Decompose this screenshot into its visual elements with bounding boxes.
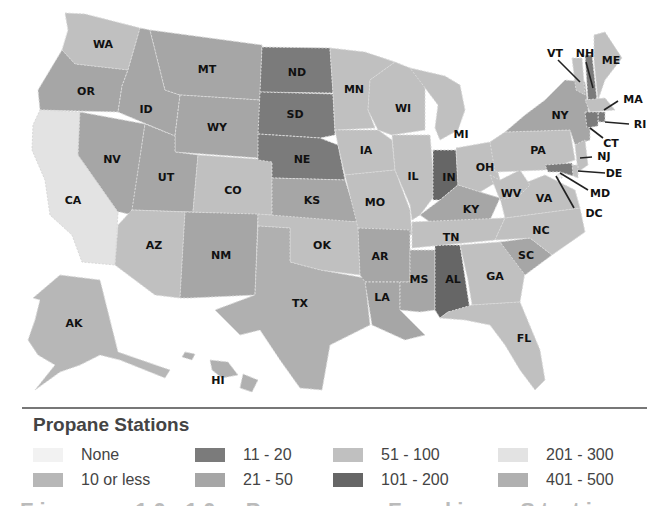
label-IL: IL bbox=[407, 170, 418, 183]
label-WI: WI bbox=[395, 102, 411, 115]
figure-caption: Figure 10-10. Propane Fueling Stations b… bbox=[20, 496, 664, 506]
legend-label: 201 - 300 bbox=[546, 446, 614, 464]
label-AZ: AZ bbox=[146, 239, 163, 252]
label-IN: IN bbox=[442, 171, 455, 184]
label-CO: CO bbox=[224, 184, 241, 197]
legend-label: 21 - 50 bbox=[243, 471, 293, 489]
label-MS: MS bbox=[410, 273, 429, 286]
legend-label: 51 - 100 bbox=[381, 446, 440, 464]
label-MT: MT bbox=[198, 63, 217, 76]
us-propane-map: WA OR CA ID NV MT WY UT AZ CO NM ND SD N… bbox=[0, 0, 664, 400]
state-AK[interactable] bbox=[28, 275, 170, 390]
legend-divider bbox=[22, 407, 647, 409]
label-MD: MD bbox=[590, 187, 610, 200]
legend-item-21-50: 21 - 50 bbox=[195, 471, 293, 489]
label-ND: ND bbox=[288, 66, 306, 79]
label-NV: NV bbox=[103, 153, 121, 166]
label-AR: AR bbox=[372, 250, 390, 263]
label-AL: AL bbox=[445, 273, 461, 286]
leader-DE bbox=[578, 171, 605, 173]
label-OR: OR bbox=[77, 85, 95, 98]
label-NC: NC bbox=[532, 224, 549, 237]
legend-swatch bbox=[498, 448, 528, 462]
leader-NJ bbox=[580, 157, 592, 158]
legend-item-none: None bbox=[33, 446, 119, 464]
label-SC: SC bbox=[518, 249, 534, 262]
label-MO: MO bbox=[365, 196, 385, 209]
label-NH: NH bbox=[576, 47, 594, 60]
legend-item-51-100: 51 - 100 bbox=[333, 446, 440, 464]
legend-label: 401 - 500 bbox=[546, 471, 614, 489]
legend-item-201-300: 201 - 300 bbox=[498, 446, 614, 464]
label-MI: MI bbox=[453, 128, 468, 141]
label-VA: VA bbox=[536, 192, 553, 205]
label-NE: NE bbox=[294, 153, 311, 166]
leader-RI bbox=[605, 122, 629, 124]
legend-label: 11 - 20 bbox=[243, 446, 292, 464]
legend-swatch bbox=[195, 473, 225, 487]
state-HI-3 bbox=[240, 374, 258, 392]
label-GA: GA bbox=[486, 270, 504, 283]
label-CA: CA bbox=[65, 194, 82, 207]
label-NY: NY bbox=[551, 109, 569, 122]
label-MN: MN bbox=[344, 83, 364, 96]
label-AK: AK bbox=[65, 317, 83, 330]
state-CT[interactable] bbox=[585, 112, 598, 128]
label-CT: CT bbox=[603, 137, 619, 150]
label-ME: ME bbox=[602, 54, 620, 67]
label-OK: OK bbox=[313, 239, 331, 252]
label-NM: NM bbox=[211, 249, 231, 262]
legend-item-101-200: 101 - 200 bbox=[333, 471, 449, 489]
label-KS: KS bbox=[304, 194, 321, 207]
leader-CT bbox=[590, 128, 603, 138]
state-AZ[interactable] bbox=[115, 210, 185, 298]
label-DC: DC bbox=[585, 207, 602, 220]
label-WV: WV bbox=[501, 187, 522, 200]
label-KY: KY bbox=[463, 203, 481, 216]
label-TN: TN bbox=[443, 231, 460, 244]
label-NJ: NJ bbox=[597, 150, 610, 163]
label-MA: MA bbox=[623, 93, 643, 106]
label-LA: LA bbox=[374, 291, 390, 304]
legend-label: 101 - 200 bbox=[381, 471, 449, 489]
label-IA: IA bbox=[360, 144, 373, 157]
label-WA: WA bbox=[93, 38, 114, 51]
legend-swatch bbox=[333, 448, 363, 462]
label-HI: HI bbox=[211, 374, 224, 387]
legend-label: 10 or less bbox=[81, 471, 150, 489]
label-DE: DE bbox=[606, 167, 623, 180]
legend-item-11-20: 11 - 20 bbox=[195, 446, 292, 464]
legend-title: Propane Stations bbox=[33, 414, 189, 436]
legend-swatch bbox=[498, 473, 528, 487]
label-VT: VT bbox=[547, 47, 564, 60]
state-RI[interactable] bbox=[598, 112, 605, 122]
legend-swatch bbox=[333, 473, 363, 487]
legend-item-10-or-less: 10 or less bbox=[33, 471, 150, 489]
label-FL: FL bbox=[517, 332, 532, 345]
label-PA: PA bbox=[530, 144, 546, 157]
label-RI: RI bbox=[634, 118, 647, 131]
legend-swatch bbox=[195, 448, 225, 462]
label-OH: OH bbox=[476, 161, 495, 174]
label-SD: SD bbox=[286, 108, 303, 121]
legend-item-401-500: 401 - 500 bbox=[498, 471, 614, 489]
legend: None 10 or less 11 - 20 21 - 50 51 - 100… bbox=[33, 446, 653, 492]
legend-label: None bbox=[81, 446, 119, 464]
legend-swatch bbox=[33, 448, 63, 462]
label-ID: ID bbox=[139, 103, 152, 116]
state-FL[interactable] bbox=[440, 302, 545, 390]
label-WY: WY bbox=[207, 121, 228, 134]
label-UT: UT bbox=[158, 171, 175, 184]
label-TX: TX bbox=[292, 297, 309, 310]
state-HI[interactable] bbox=[182, 352, 195, 360]
legend-swatch bbox=[33, 473, 63, 487]
